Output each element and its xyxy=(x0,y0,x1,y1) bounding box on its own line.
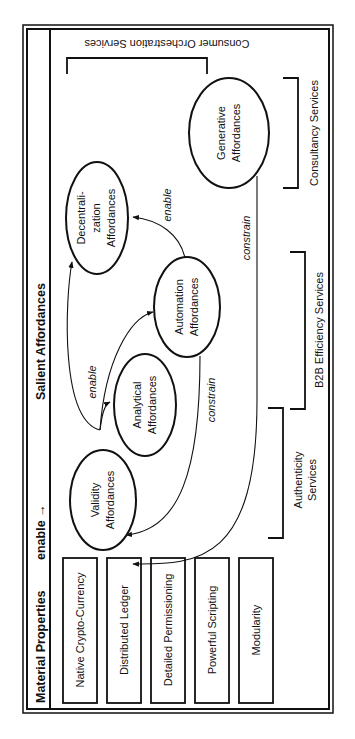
salient-affordances-title: Salient Affordances xyxy=(34,283,48,400)
affordance-diagram: Material Properties enable → Salient Aff… xyxy=(0,0,355,739)
edge-label-constrain-2: constrain xyxy=(240,216,252,261)
label-validity-1: Validity xyxy=(89,482,101,517)
enable-arrow-label: enable → xyxy=(34,504,48,560)
material-properties-title: Material Properties xyxy=(34,590,48,703)
edge-label-constrain-1: constrain xyxy=(205,378,217,423)
edge-label-enable-2: enable xyxy=(161,188,173,221)
node-validity xyxy=(70,450,136,550)
edge-automation-decentralization xyxy=(133,217,185,258)
label-analytical-2: Affordances xyxy=(146,375,158,434)
label-automation-1: Automation xyxy=(173,279,185,335)
label-consumer: Consumer Orchestration Services xyxy=(84,38,250,50)
label-modularity: Modularity xyxy=(250,604,262,655)
bracket-authenticity xyxy=(268,408,283,538)
label-powerful-scripting: Powerful Scripting xyxy=(206,586,218,675)
bracket-b2b xyxy=(290,252,305,409)
node-generative xyxy=(189,78,269,188)
label-distributed-ledger: Distributed Ledger xyxy=(118,585,130,675)
label-authenticity-1: Authenticity xyxy=(292,451,304,508)
label-validity-2: Affordances xyxy=(104,470,116,529)
label-detailed-permissioning: Detailed Permissioning xyxy=(162,574,174,687)
material-property-boxes: Native Crypto-Currency Distributed Ledge… xyxy=(63,558,273,703)
label-generative-1: Generative xyxy=(215,106,227,160)
bracket-consultancy xyxy=(283,78,298,188)
label-automation-2: Affordances xyxy=(188,277,200,336)
label-b2b: B2B Efficiency Services xyxy=(313,272,325,388)
label-consultancy: Consultancy Services xyxy=(308,80,320,186)
label-authenticity-2: Services xyxy=(306,458,318,501)
edge-label-enable-1: enable xyxy=(86,365,98,398)
label-decentralization-3: Affordances xyxy=(105,188,117,247)
label-analytical-1: Analytical xyxy=(131,381,143,428)
node-analytical xyxy=(114,354,176,456)
label-generative-2: Affordances xyxy=(230,103,242,162)
label-decentralization-1: Decentrali- xyxy=(75,191,87,245)
node-automation xyxy=(154,257,220,357)
edge-validity-decentralization xyxy=(67,262,100,430)
label-native-crypto-currency: Native Crypto-Currency xyxy=(74,572,86,687)
bracket-consumer xyxy=(67,58,207,74)
affordance-nodes: Validity Affordances Analytical Affordan… xyxy=(66,78,269,550)
label-decentralization-2: zation xyxy=(90,203,102,232)
